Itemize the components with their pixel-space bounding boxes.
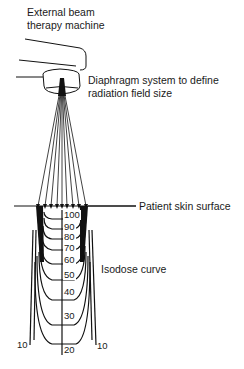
isodose-value-60: 60 [63,255,76,265]
isodose-value-80: 80 [63,232,76,242]
machine-label-line1: External beam [27,6,95,18]
isodose-value-20: 20 [63,345,76,355]
machine-label-line2: therapy machine [27,19,105,31]
isodose-value-10-left: 10 [16,340,29,350]
isodose-value-100: 100 [63,210,81,220]
diaphragm-label-line2: radiation field size [88,87,172,99]
skin-surface-label: Patient skin surface [139,200,231,212]
machine-head-outline [25,39,86,70]
machine-arm-line [19,60,76,66]
isodose-value-40: 40 [63,287,76,297]
diaphragm-label-line1: Diaphragm system to define [88,74,219,86]
isodose-value-50: 50 [63,270,76,280]
isodose-value-70: 70 [63,243,76,253]
isodose-curve-label: Isodose curve [101,263,166,275]
isodose-value-30: 30 [63,311,76,321]
beam-core [58,78,66,96]
radiation-beam-diagram [0,0,244,369]
isodose-value-10-right: 10 [96,341,109,351]
beam-rays [38,80,86,206]
